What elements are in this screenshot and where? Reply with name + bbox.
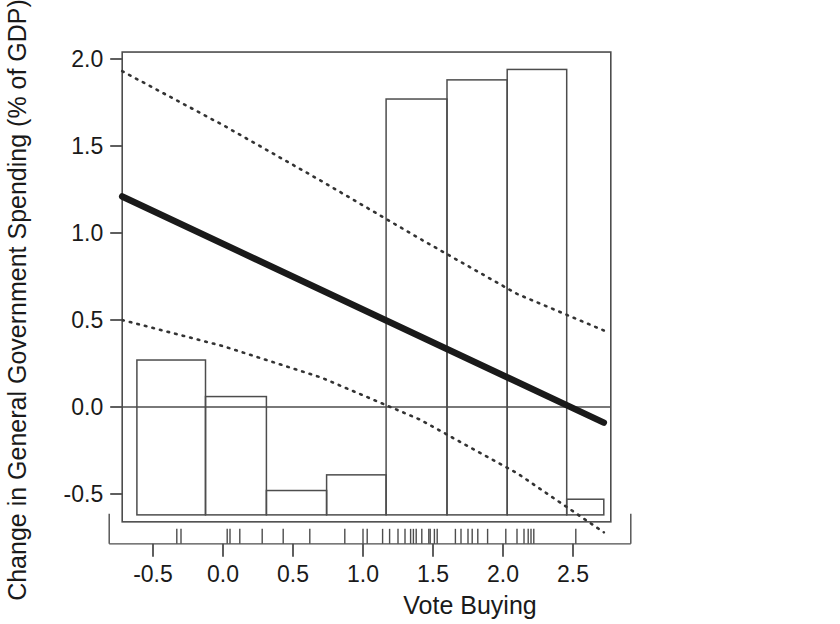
y-axis-tick-label: 1.0 [71, 220, 103, 246]
plot-frame [122, 52, 611, 522]
x-axis-tick-label: -0.5 [133, 561, 173, 587]
y-axis-tick-label: -0.5 [64, 481, 104, 507]
y-axis-tick-label: 0.5 [71, 307, 103, 333]
histogram-bar [447, 80, 507, 515]
x-axis-tick-label: 2.0 [487, 561, 519, 587]
histogram-bar [327, 475, 387, 515]
histogram-bar [266, 491, 326, 515]
scatter-regression-plot: -0.50.00.51.01.52.02.5-0.50.00.51.01.52.… [0, 0, 840, 624]
upper-confidence-band [122, 71, 604, 330]
x-axis-tick-label: 0.0 [207, 561, 239, 587]
chart-figure: -0.50.00.51.01.52.02.5-0.50.00.51.01.52.… [0, 0, 840, 624]
x-axis-title: Vote Buying [403, 591, 536, 619]
x-axis-tick-label: 1.5 [417, 561, 449, 587]
y-axis-tick-label: 1.5 [71, 133, 103, 159]
x-axis-tick-label: 0.5 [277, 561, 309, 587]
y-axis-title: Change in General Government Spending (%… [3, 0, 31, 601]
x-axis-tick-label: 1.0 [347, 561, 379, 587]
histogram-bar [137, 360, 206, 515]
lower-confidence-band [122, 320, 604, 532]
y-axis-tick-label: 0.0 [71, 394, 103, 420]
regression-line [122, 196, 604, 422]
histogram-bar [386, 99, 447, 515]
y-axis-tick-label: 2.0 [71, 46, 103, 72]
histogram-bar [206, 397, 267, 515]
histogram-bar [567, 499, 604, 515]
x-axis-tick-label: 2.5 [557, 561, 589, 587]
